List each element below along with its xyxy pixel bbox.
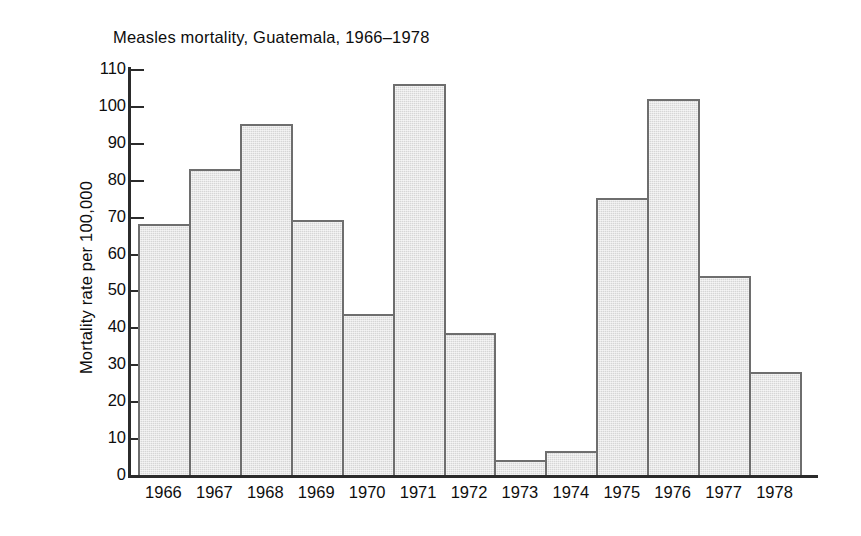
bar-1972 <box>444 333 497 475</box>
x-axis-tick-label: 1969 <box>291 483 342 502</box>
x-axis-ticks: 1966196719681969197019711972197319741975… <box>138 483 800 513</box>
y-axis-line <box>128 67 131 477</box>
y-axis-tick-label: 10 <box>66 427 126 447</box>
chart-title: Measles mortality, Guatemala, 1966–1978 <box>113 28 430 47</box>
y-axis-tick-label: 50 <box>66 279 126 299</box>
bar-1968 <box>240 124 293 475</box>
y-axis-tick-label: 30 <box>66 353 126 373</box>
bar-1966 <box>138 224 191 475</box>
bar-1973 <box>494 460 547 475</box>
bar-1978 <box>749 372 802 475</box>
y-axis-label: Mortality rate per 100,000 <box>77 68 96 488</box>
bar-1971 <box>393 84 446 475</box>
y-axis-tick-label: 40 <box>66 316 126 336</box>
y-axis-tick-label: 110 <box>66 58 126 78</box>
x-axis-tick-label: 1973 <box>494 483 545 502</box>
x-axis-tick-label: 1978 <box>749 483 800 502</box>
x-axis-tick-label: 1970 <box>342 483 393 502</box>
y-axis-tick-label: 20 <box>66 390 126 410</box>
x-axis-tick-label: 1975 <box>596 483 647 502</box>
chart-figure: Measles mortality, Guatemala, 1966–1978 … <box>0 0 861 536</box>
x-axis-tick-label: 1967 <box>189 483 240 502</box>
y-axis-tick-label: 90 <box>66 132 126 152</box>
y-axis-tick-label: 70 <box>66 206 126 226</box>
x-axis-tick-label: 1972 <box>444 483 495 502</box>
y-axis-tick-label: 60 <box>66 243 126 263</box>
y-axis-tick-label: 100 <box>66 95 126 115</box>
bar-1970 <box>342 314 395 475</box>
x-axis-line <box>128 475 818 478</box>
x-axis-tick-label: 1976 <box>647 483 698 502</box>
bar-series <box>138 69 800 475</box>
bar-1975 <box>596 198 649 475</box>
bar-1976 <box>647 99 700 475</box>
x-axis-tick-label: 1966 <box>138 483 189 502</box>
y-axis-tick-label: 80 <box>66 169 126 189</box>
bar-1974 <box>545 451 598 475</box>
bar-1967 <box>189 169 242 475</box>
plot-area: 0102030405060708090100110 19661967196819… <box>128 69 818 475</box>
bar-1969 <box>291 220 344 475</box>
x-axis-tick-label: 1974 <box>545 483 596 502</box>
bar-1977 <box>698 276 751 475</box>
x-axis-tick-label: 1971 <box>393 483 444 502</box>
y-axis-tick: 0 <box>131 475 144 477</box>
x-axis-tick-label: 1968 <box>240 483 291 502</box>
x-axis-tick-label: 1977 <box>698 483 749 502</box>
y-axis-tick-label: 0 <box>66 464 126 484</box>
